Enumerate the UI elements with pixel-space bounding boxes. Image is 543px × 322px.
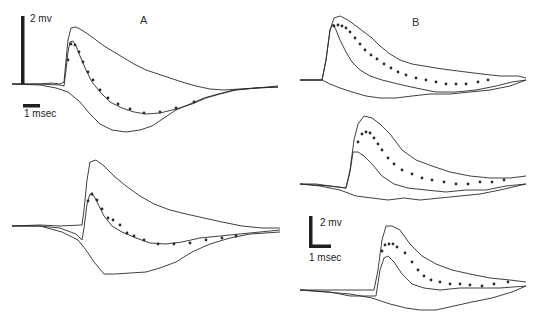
trace-positive [12, 27, 278, 90]
trace-large [300, 116, 526, 188]
scale-bar-b-horizontal [309, 245, 331, 249]
panel-a-lower [12, 160, 280, 274]
panel-b-label: B [412, 16, 419, 28]
panel-b-bottom [300, 226, 526, 310]
scale-bar-a-vertical [21, 16, 25, 84]
dots-b-bottom [381, 243, 510, 288]
trace-positive [12, 160, 280, 228]
panel-b-middle [300, 116, 526, 200]
panel-b-top [300, 16, 526, 98]
scale-b-voltage-label: 2 mv [320, 217, 342, 228]
dots-b-top [333, 24, 490, 86]
oscilloscope-figure [0, 0, 543, 322]
panel-a-label: A [140, 14, 147, 26]
trace-middle [12, 194, 280, 244]
dots-middle [67, 43, 196, 115]
trace-middle [12, 41, 278, 114]
scale-a-time-label: 1 msec [24, 108, 56, 119]
dots-middle [87, 193, 238, 246]
scale-bar-a-horizontal [23, 104, 40, 108]
scale-b-time-label: 1 msec [309, 252, 341, 263]
scale-bar-b-vertical [309, 216, 313, 248]
trace-small [300, 24, 526, 92]
trace-negative [300, 80, 526, 98]
trace-negative [12, 226, 280, 274]
scale-a-voltage-label: 2 mv [30, 13, 52, 24]
